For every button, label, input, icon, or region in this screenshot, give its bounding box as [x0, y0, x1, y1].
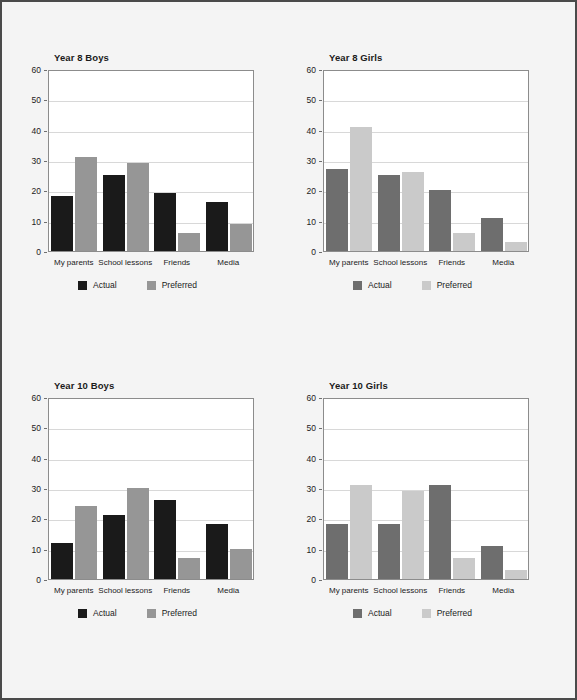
- bar-group: [376, 71, 428, 251]
- legend-item-preferred[interactable]: Preferred: [147, 280, 197, 290]
- panel-year-8-boys: Year 8 Boys 0102030405060My parentsSchoo…: [2, 2, 287, 332]
- bar-preferred: [402, 172, 424, 251]
- y-axis-tick-mark: [319, 222, 322, 223]
- bar-preferred: [75, 157, 97, 251]
- y-axis-tick-label: 30: [14, 485, 41, 494]
- x-axis-tick-label: School lessons: [373, 259, 427, 267]
- y-axis-tick-mark: [319, 252, 322, 253]
- panel-year-10-boys: Year 10 Boys 0102030405060My parentsScho…: [2, 332, 287, 698]
- chart-legend: ActualPreferred: [78, 608, 197, 618]
- y-axis-tick-label: 20: [289, 187, 316, 196]
- y-axis-tick-mark: [44, 519, 47, 520]
- legend-swatch-icon: [147, 609, 156, 618]
- bar-group: [427, 399, 479, 579]
- x-axis-tick-label: Friends: [438, 259, 465, 267]
- bar-group: [324, 399, 376, 579]
- y-axis-tick-mark: [319, 100, 322, 101]
- bar-actual: [429, 485, 451, 579]
- legend-label: Actual: [93, 280, 117, 290]
- x-axis-tick-label: School lessons: [98, 587, 152, 595]
- bar-preferred: [350, 127, 372, 251]
- y-axis-tick-mark: [44, 398, 47, 399]
- legend-item-actual[interactable]: Actual: [78, 608, 117, 618]
- y-axis-tick-mark: [319, 489, 322, 490]
- chart-legend: ActualPreferred: [353, 608, 472, 618]
- y-axis-tick-label: 20: [14, 515, 41, 524]
- y-axis-tick-label: 50: [14, 96, 41, 105]
- x-axis-tick-label: Friends: [163, 259, 190, 267]
- legend-item-preferred[interactable]: Preferred: [147, 608, 197, 618]
- bars-layer: [324, 399, 528, 579]
- bars-layer: [49, 71, 253, 251]
- figure-page: Year 8 Boys 0102030405060My parentsSchoo…: [0, 0, 577, 700]
- y-axis-tick-mark: [44, 489, 47, 490]
- y-axis-tick-mark: [319, 550, 322, 551]
- bar-actual: [51, 543, 73, 579]
- bar-actual: [326, 169, 348, 251]
- bar-group: [204, 399, 256, 579]
- bar-group: [427, 71, 479, 251]
- legend-label: Preferred: [437, 280, 472, 290]
- y-axis-tick-label: 60: [14, 66, 41, 75]
- bar-group: [49, 399, 101, 579]
- y-axis-tick-mark: [44, 428, 47, 429]
- bar-actual: [378, 175, 400, 251]
- bar-preferred: [127, 163, 149, 251]
- bar-preferred: [505, 570, 527, 579]
- bar-actual: [103, 515, 125, 579]
- legend-swatch-icon: [78, 281, 87, 290]
- chart-grid: Year 8 Boys 0102030405060My parentsSchoo…: [2, 2, 575, 698]
- chart-legend: ActualPreferred: [353, 280, 472, 290]
- y-axis-tick-label: 50: [289, 424, 316, 433]
- legend-swatch-icon: [422, 281, 431, 290]
- y-axis-tick-label: 0: [289, 248, 316, 257]
- bar-group: [152, 71, 204, 251]
- y-axis-tick-label: 30: [289, 157, 316, 166]
- bar-group: [376, 399, 428, 579]
- bar-actual: [481, 546, 503, 579]
- legend-label: Preferred: [162, 608, 197, 618]
- y-axis-tick-label: 10: [14, 217, 41, 226]
- legend-item-actual[interactable]: Actual: [353, 280, 392, 290]
- y-axis-tick-mark: [44, 100, 47, 101]
- x-axis-tick-label: Friends: [163, 587, 190, 595]
- legend-item-preferred[interactable]: Preferred: [422, 608, 472, 618]
- x-axis-tick-label: My parents: [329, 587, 369, 595]
- legend-swatch-icon: [353, 281, 362, 290]
- y-axis-tick-mark: [44, 70, 47, 71]
- chart-legend: ActualPreferred: [78, 280, 197, 290]
- x-axis-tick-label: Media: [217, 259, 239, 267]
- legend-label: Actual: [368, 608, 392, 618]
- y-axis-tick-label: 50: [289, 96, 316, 105]
- y-axis-tick-mark: [44, 550, 47, 551]
- panel-year-8-girls: Year 8 Girls 0102030405060My parentsScho…: [287, 2, 575, 332]
- panel-year-10-girls: Year 10 Girls 0102030405060My parentsSch…: [287, 332, 575, 698]
- y-axis-tick-mark: [319, 131, 322, 132]
- chart-year-10-boys: 0102030405060My parentsSchool lessonsFri…: [14, 398, 264, 628]
- y-axis-tick-mark: [319, 580, 322, 581]
- y-axis-tick-mark: [44, 459, 47, 460]
- x-axis-tick-label: My parents: [54, 587, 94, 595]
- bar-actual: [51, 196, 73, 251]
- bar-preferred: [178, 558, 200, 579]
- y-axis-tick-mark: [319, 398, 322, 399]
- bar-actual: [326, 524, 348, 579]
- bar-preferred: [230, 549, 252, 579]
- y-axis-tick-label: 60: [289, 66, 316, 75]
- y-axis-tick-label: 40: [14, 126, 41, 135]
- bar-preferred: [350, 485, 372, 579]
- y-axis-tick-label: 10: [289, 545, 316, 554]
- legend-item-actual[interactable]: Actual: [353, 608, 392, 618]
- bars-layer: [49, 399, 253, 579]
- legend-label: Actual: [93, 608, 117, 618]
- bar-group: [204, 71, 256, 251]
- y-axis-tick-label: 0: [14, 248, 41, 257]
- plot-area: [323, 398, 529, 580]
- legend-item-preferred[interactable]: Preferred: [422, 280, 472, 290]
- bars-layer: [324, 71, 528, 251]
- bar-actual: [206, 202, 228, 251]
- plot-area: [323, 70, 529, 252]
- y-axis-tick-mark: [44, 252, 47, 253]
- bar-actual: [154, 500, 176, 579]
- legend-item-actual[interactable]: Actual: [78, 280, 117, 290]
